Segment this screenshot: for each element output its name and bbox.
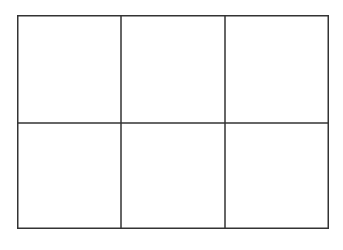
- grid-diagram: [17, 15, 329, 229]
- grid-border: [18, 16, 329, 229]
- grid-lines: [17, 15, 329, 229]
